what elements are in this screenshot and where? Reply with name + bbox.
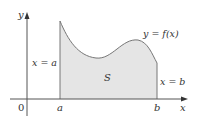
curve-label: y = f(x)	[142, 28, 179, 39]
y-axis-arrow-icon	[25, 12, 30, 19]
right-bound-label: x = b	[160, 76, 185, 87]
origin-label: 0	[18, 102, 24, 113]
x-axis-arrow-icon	[181, 97, 188, 102]
left-bound-label: x = a	[32, 57, 57, 68]
y-axis-label: y	[17, 9, 24, 20]
b-tick-label: b	[154, 102, 160, 113]
x-axis-label: x	[180, 102, 186, 113]
region-label: S	[104, 72, 111, 83]
a-tick-label: a	[57, 102, 63, 113]
area-under-curve-diagram: y x 0 a b x = a x = b y = f(x) S	[0, 0, 198, 121]
